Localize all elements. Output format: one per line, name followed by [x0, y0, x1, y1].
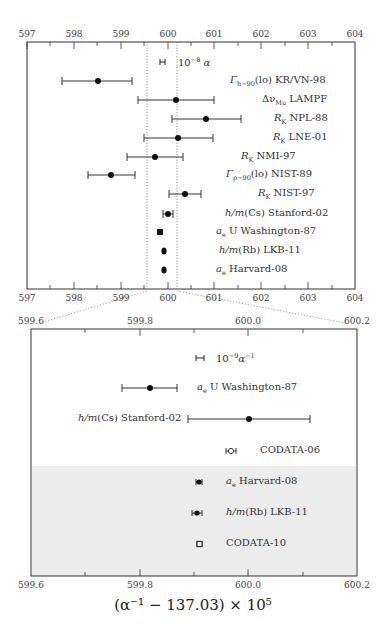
- bottom-label-stanford02: h/m(Cs) Stanford-02: [78, 413, 181, 423]
- bottom-top-tick-600-2: 600.2: [344, 317, 370, 326]
- bottom-label-harvard08: ae Harvard-08: [226, 476, 297, 489]
- label-uwash87: ae U Washington-87: [216, 226, 316, 239]
- bottom-label-uwash87: ae U Washington-87: [197, 382, 297, 395]
- label-stanford02: h/m(Cs) Stanford-02: [225, 208, 328, 218]
- top-tick-601: 601: [205, 30, 222, 39]
- label-nmi97: RK NMI-97: [241, 151, 296, 164]
- top-bottom-tick-600: 600: [159, 294, 176, 303]
- bottom-top-tick-599-8: 599.8: [127, 317, 153, 326]
- label-krvn98: Γh−90(lo) KR/VN-98: [230, 75, 326, 88]
- x-axis-label: (α⁻¹ − 137.03) × 10⁵: [0, 596, 386, 614]
- top-bottom-tick-598: 598: [65, 294, 82, 303]
- top-bottom-tick-599: 599: [112, 294, 129, 303]
- bottom-top-tick-600-0: 600.0: [235, 317, 261, 326]
- top-bottom-tick-603: 603: [299, 294, 316, 303]
- label-harvard08: ae Harvard-08: [216, 264, 287, 277]
- top-errorbars: [62, 77, 241, 274]
- bottom-tick-599-6: 599.6: [18, 581, 44, 590]
- bottom-tick-599-8: 599.8: [127, 581, 153, 590]
- label-lampf: ΔνMu LAMPF: [262, 94, 327, 107]
- shaded-region: [32, 466, 356, 576]
- top-tick-599: 599: [112, 30, 129, 39]
- bottom-tick-600-0: 600.0: [235, 581, 261, 590]
- bottom-label-codata10: CODATA-10: [226, 538, 286, 548]
- top-tick-597: 597: [18, 30, 35, 39]
- label-nist89: Γp−90(lo) NIST-89: [226, 169, 312, 182]
- top-bottom-tick-602: 602: [252, 294, 269, 303]
- top-scale-label: 10−8 α: [178, 57, 210, 68]
- figure: 597 598 599 600 601 602 603 604 597 598 …: [0, 0, 386, 634]
- label-lkb11: h/m(Rb) LKB-11: [219, 245, 301, 255]
- label-npl88: RK NPL-88: [274, 113, 328, 126]
- label-nist97: RK NIST-97: [258, 188, 315, 201]
- bottom-top-tick-599-6: 599.6: [18, 317, 44, 326]
- bottom-scale-label: 10−9α−1: [216, 353, 255, 364]
- top-bottom-tick-601: 601: [205, 294, 222, 303]
- top-tick-604: 604: [346, 30, 363, 39]
- top-scale-bar: [160, 59, 165, 65]
- top-tick-600: 600: [159, 30, 176, 39]
- top-bottom-tick-597: 597: [18, 294, 35, 303]
- figure-graphics: [0, 0, 386, 634]
- top-tick-603: 603: [299, 30, 316, 39]
- top-bottom-tick-604: 604: [346, 294, 363, 303]
- bottom-tick-600-2: 600.2: [344, 581, 370, 590]
- label-lne01: RK LNE-01: [273, 132, 328, 145]
- bottom-label-codata06: CODATA-06: [260, 445, 320, 455]
- bottom-scale-bar: [196, 355, 204, 361]
- bottom-label-lkb11: h/m(Rb) LKB-11: [226, 507, 308, 517]
- top-tick-602: 602: [252, 30, 269, 39]
- top-tick-598: 598: [65, 30, 82, 39]
